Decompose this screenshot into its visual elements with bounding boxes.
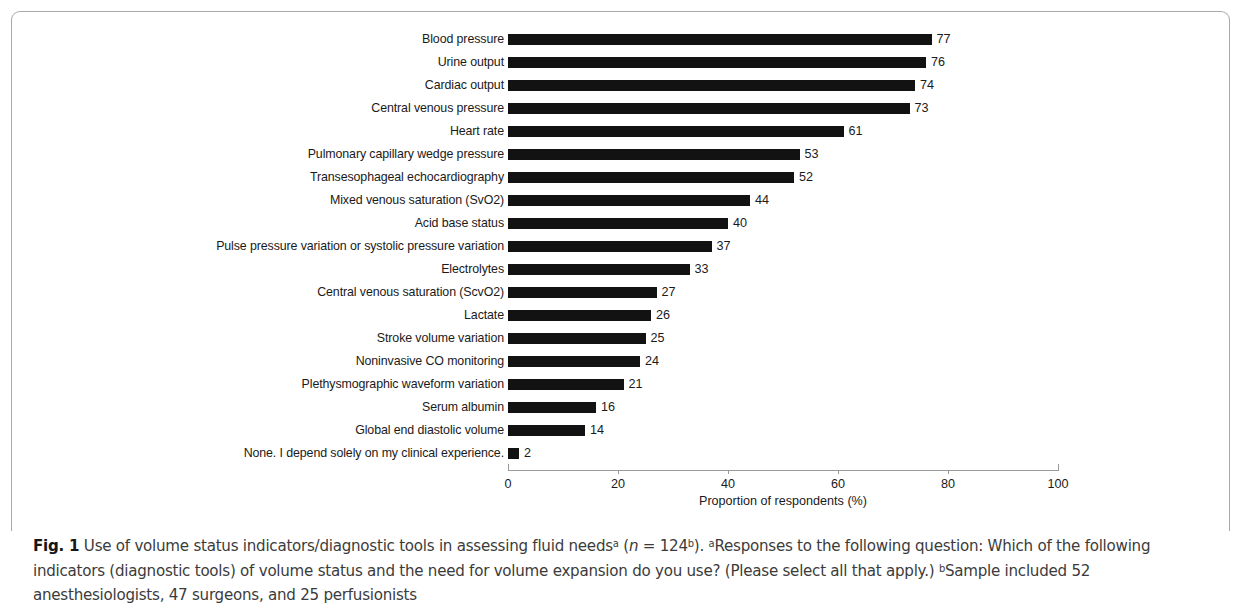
bar-category-label: None. I depend solely on my clinical exp… [244,442,504,465]
bar-row: Transesophageal echocardiography52 [0,166,1241,189]
caption-paren-close: ). [694,537,709,555]
x-axis-tick [948,470,949,474]
bar-category-label: Central venous pressure [371,97,504,120]
bar-value-label: 74 [920,74,934,97]
bar-row: Urine output76 [0,51,1241,74]
bar-category-label: Plethysmographic waveform variation [302,373,504,396]
bar-category-label: Global end diastolic volume [355,419,504,442]
bar-category-label: Urine output [438,51,504,74]
bar-category-label: Noninvasive CO monitoring [356,350,504,373]
x-axis-tick-label: 40 [721,477,735,491]
bar-row: Acid base status40 [0,212,1241,235]
bar [508,287,657,298]
bar [508,310,651,321]
bar-value-label: 76 [931,51,945,74]
caption-n-italic: n [629,537,638,555]
bar [508,80,915,91]
bar [508,425,585,436]
bar-row: Cardiac output74 [0,74,1241,97]
bar-value-label: 21 [629,373,643,396]
bar-category-label: Stroke volume variation [377,327,504,350]
bar-value-label: 14 [590,419,604,442]
bar-value-label: 53 [805,143,819,166]
figure-caption: Fig. 1 Use of volume status indicators/d… [33,534,1218,607]
bar-row: Heart rate61 [0,120,1241,143]
x-axis-left-cap [508,464,509,471]
bar [508,57,926,68]
bar-value-label: 44 [755,189,769,212]
bar-row: Electrolytes33 [0,258,1241,281]
bar-row: Noninvasive CO monitoring24 [0,350,1241,373]
bar-row: Stroke volume variation25 [0,327,1241,350]
bar [508,34,932,45]
bar [508,172,794,183]
bar-row: Plethysmographic waveform variation21 [0,373,1241,396]
bar [508,126,844,137]
x-axis-tick-label: 100 [1047,477,1068,491]
bar-row: Pulmonary capillary wedge pressure53 [0,143,1241,166]
bar-category-label: Acid base status [415,212,504,235]
bar [508,241,712,252]
bar-value-label: 77 [937,28,951,51]
bar [508,218,728,229]
x-axis-tick-label: 20 [611,477,625,491]
x-axis-right-cap [1058,464,1059,471]
bar-row: Serum albumin16 [0,396,1241,419]
bar-value-label: 73 [915,97,929,120]
bar-value-label: 26 [656,304,670,327]
bar-value-label: 33 [695,258,709,281]
bar [508,264,690,275]
bar-category-label: Electrolytes [441,258,504,281]
bar [508,448,519,459]
bar-category-label: Mixed venous saturation (SvO2) [330,189,504,212]
bar-category-label: Lactate [464,304,504,327]
bar-value-label: 16 [601,396,615,419]
bar-value-label: 25 [651,327,665,350]
bar-row: Central venous saturation (ScvO2)27 [0,281,1241,304]
bar-chart-plot-area: Blood pressure77Urine output76Cardiac ou… [0,0,1241,500]
bar-value-label: 52 [799,166,813,189]
bar-row: Mixed venous saturation (SvO2)44 [0,189,1241,212]
bar-category-label: Pulse pressure variation or systolic pre… [216,235,504,258]
bar-category-label: Central venous saturation (ScvO2) [317,281,504,304]
bar-category-label: Blood pressure [422,28,504,51]
bar-value-label: 27 [662,281,676,304]
bar-category-label: Heart rate [450,120,504,143]
bar-category-label: Transesophageal echocardiography [310,166,504,189]
x-axis-tick [618,470,619,474]
bar-row: Global end diastolic volume14 [0,419,1241,442]
bar-category-label: Cardiac output [425,74,504,97]
bar-category-label: Serum albumin [422,396,504,419]
bar-value-label: 24 [645,350,659,373]
caption-figure-number: Fig. 1 [33,537,79,555]
figure-page: Blood pressure77Urine output76Cardiac ou… [0,0,1241,607]
x-axis-tick-label: 80 [941,477,955,491]
bar-value-label: 2 [524,442,531,465]
bar-value-label: 61 [849,120,863,143]
caption-n-value: = 124 [638,537,688,555]
x-axis-tick-label: 0 [504,477,511,491]
bar-row: Blood pressure77 [0,28,1241,51]
x-axis-line [508,470,1058,471]
bar-row: Pulse pressure variation or systolic pre… [0,235,1241,258]
bar-category-label: Pulmonary capillary wedge pressure [308,143,504,166]
bar-row: None. I depend solely on my clinical exp… [0,442,1241,465]
x-axis-tick [728,470,729,474]
bar [508,149,800,160]
caption-paren-open: ( [619,537,629,555]
bar [508,103,910,114]
bar-row: Central venous pressure73 [0,97,1241,120]
bar [508,402,596,413]
x-axis-tick-label: 60 [831,477,845,491]
caption-part-1: Use of volume status indicators/diagnost… [79,537,613,555]
bar-row: Lactate26 [0,304,1241,327]
bar [508,379,624,390]
x-axis-tick [838,470,839,474]
bar [508,195,750,206]
bar-value-label: 40 [733,212,747,235]
bar [508,356,640,367]
x-axis-title: Proportion of respondents (%) [508,494,1058,508]
bar [508,333,646,344]
bar-value-label: 37 [717,235,731,258]
